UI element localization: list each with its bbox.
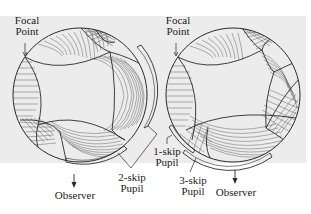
right-observer-text: Observer	[216, 186, 256, 198]
right-pupil1-line2: Pupil	[150, 157, 184, 168]
ray-diagram-svg	[0, 0, 311, 214]
left-pupil-line2: Pupil	[112, 183, 152, 194]
right-3skip-pupil-label: 3-skip Pupil	[176, 175, 210, 197]
left-observer-text: Observer	[55, 189, 95, 201]
left-focal-point-label: Focal Point	[12, 15, 42, 37]
right-pupil3-line2: Pupil	[176, 186, 210, 197]
right-1skip-pupil-label: 1-skip Pupil	[150, 146, 184, 168]
right-observer-label: Observer	[213, 187, 259, 198]
left-observer-label: Observer	[52, 190, 98, 201]
right-focal-line2: Point	[163, 26, 193, 37]
diagram-figure: Focal Point 2-skip Pupil Observer Focal …	[0, 0, 311, 214]
left-focal-line2: Point	[12, 26, 42, 37]
left-panel	[13, 28, 158, 188]
right-panel	[166, 28, 300, 184]
left-pupil-label: 2-skip Pupil	[112, 172, 152, 194]
right-focal-point-label: Focal Point	[163, 15, 193, 37]
